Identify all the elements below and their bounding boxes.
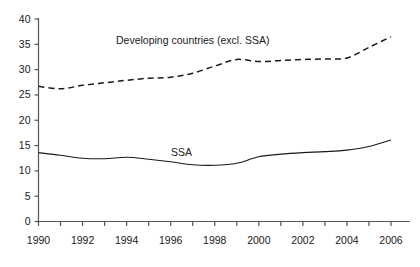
x-axis-tick-label: 1992 [66,235,100,246]
series-label-developing-countries: Developing countries (excl. SSA) [116,35,270,46]
y-axis-tick-label: 15 [9,140,31,151]
y-axis-tick-label: 25 [9,89,31,100]
y-axis-tick-label: 10 [9,165,31,176]
y-axis-tick-label: 30 [9,64,31,75]
x-axis-tick-label: 1996 [154,235,188,246]
x-axis-tick-label: 1990 [22,235,56,246]
chart-container: 0510152025303540 19901992199419961998200… [0,0,420,267]
x-axis-tick-label: 2006 [374,235,408,246]
series-line-ssa [39,140,392,165]
series-label-ssa: SSA [171,147,192,158]
x-axis-tick-label: 2002 [286,235,320,246]
y-axis-tick-label: 5 [9,191,31,202]
y-axis-tick-label: 35 [9,39,31,50]
x-axis-tick-label: 1998 [198,235,232,246]
x-axis-tick-label: 1994 [110,235,144,246]
y-axis-tick-label: 20 [9,115,31,126]
x-axis-ticks [39,222,392,227]
series-group [39,37,392,166]
y-axis-tick-label: 0 [9,216,31,227]
axes-group [35,18,411,226]
y-axis-tick-label: 40 [9,14,31,25]
x-axis-tick-label: 2000 [242,235,276,246]
x-axis-tick-label: 2004 [330,235,364,246]
